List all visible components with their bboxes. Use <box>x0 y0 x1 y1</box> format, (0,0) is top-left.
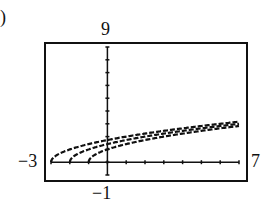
window-frame <box>45 43 247 181</box>
graph-window <box>0 0 261 208</box>
